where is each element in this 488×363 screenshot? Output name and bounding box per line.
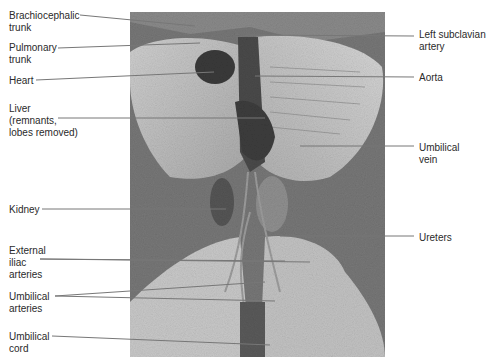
label-umbilical-cord: Umbilical cord	[9, 331, 50, 355]
label-ureters: Ureters	[419, 232, 452, 244]
label-pulmonary-trunk: Pulmonary trunk	[9, 42, 57, 66]
leader-umbilical-arteries-b	[55, 296, 275, 301]
label-external-iliac-arteries: External iliac arteries	[9, 245, 46, 281]
leader-brachiocephalic-trunk	[80, 15, 195, 26]
leader-umbilical-cord	[52, 336, 270, 345]
label-heart: Heart	[9, 75, 33, 87]
label-umbilical-vein: Umbilical vein	[419, 142, 460, 166]
leader-umbilical-arteries-a	[55, 282, 265, 296]
label-liver: Liver (remnants, lobes removed)	[9, 103, 78, 139]
leader-aorta	[255, 76, 414, 77]
leader-heart	[36, 72, 214, 80]
label-aorta: Aorta	[419, 72, 443, 84]
label-left-subclavian-artery: Left subclavian artery	[419, 29, 486, 53]
label-brachiocephalic-trunk: Brachiocephalic trunk	[9, 10, 80, 34]
anatomy-figure: Brachiocephalic trunk Pulmonary trunk He…	[0, 0, 488, 363]
label-umbilical-arteries: Umbilical arteries	[9, 291, 50, 315]
label-kidney: Kidney	[9, 204, 40, 216]
leader-pulmonary-trunk	[58, 43, 200, 48]
leader-left-subclavian-artery	[246, 35, 414, 36]
leader-lines	[0, 0, 488, 363]
